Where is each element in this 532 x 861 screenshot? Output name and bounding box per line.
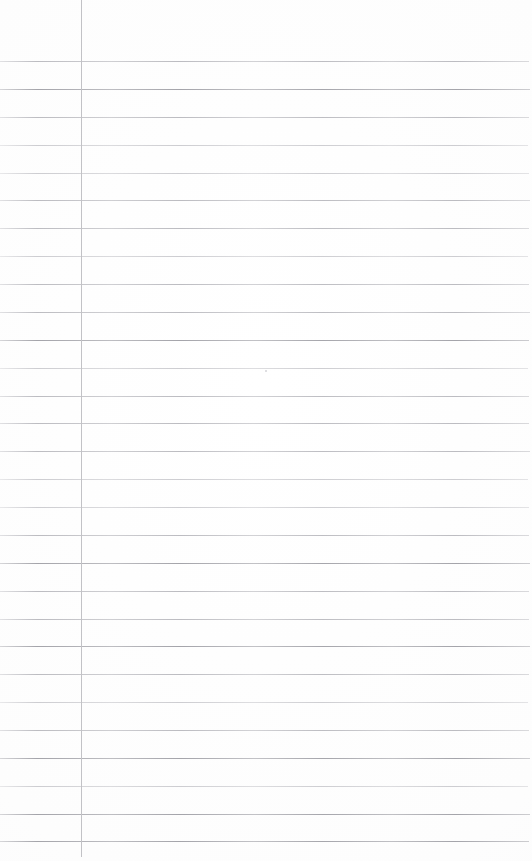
rule-line-27 — [0, 786, 528, 787]
rule-line-1 — [0, 61, 529, 62]
rule-line-5 — [0, 173, 529, 174]
rule-line-3 — [0, 117, 529, 118]
rule-line-21 — [0, 619, 529, 620]
rule-line-6 — [0, 200, 530, 201]
rule-line-16 — [0, 479, 528, 480]
rule-line-4 — [0, 145, 528, 146]
rule-line-18 — [0, 535, 529, 536]
paper-texture-overlay — [0, 0, 532, 861]
rule-line-2 — [0, 89, 530, 90]
rule-line-29 — [0, 841, 529, 842]
rule-line-14 — [0, 423, 529, 424]
rule-line-22 — [0, 646, 530, 647]
stray-scan-mark — [265, 370, 267, 372]
rule-line-17 — [0, 507, 529, 508]
rule-line-7 — [0, 228, 529, 229]
notebook-page — [0, 0, 532, 861]
rule-line-12 — [0, 368, 528, 369]
rule-line-13 — [0, 396, 529, 397]
rule-line-11 — [0, 340, 529, 341]
rule-line-26 — [0, 758, 530, 759]
rule-line-9 — [0, 284, 529, 285]
rule-line-25 — [0, 730, 529, 731]
rule-line-10 — [0, 312, 530, 313]
rule-line-24 — [0, 702, 528, 703]
margin-rule-line — [81, 0, 82, 857]
rule-line-15 — [0, 451, 530, 452]
rule-line-19 — [0, 563, 530, 564]
rule-line-23 — [0, 674, 529, 675]
rule-line-20 — [0, 591, 529, 592]
rule-line-8 — [0, 256, 528, 257]
rule-line-28 — [0, 814, 530, 815]
